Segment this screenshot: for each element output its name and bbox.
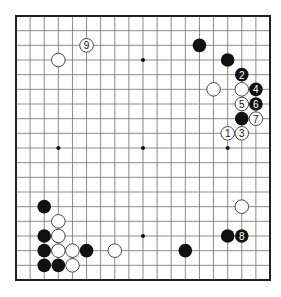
white-stone-icon [52, 215, 66, 229]
white-stone-icon [66, 259, 80, 273]
white-stone-icon [66, 244, 80, 258]
white-stone [108, 244, 122, 258]
black-stone-icon [37, 200, 51, 214]
black-stone-icon [193, 39, 207, 53]
white-stone-icon [52, 244, 66, 258]
black-stone [37, 200, 51, 214]
black-stone [37, 244, 51, 258]
black-stone [179, 244, 193, 258]
white-stone-move-9: 9 [80, 39, 94, 53]
black-stone-icon [235, 112, 249, 126]
move-number-label: 8 [239, 231, 245, 242]
black-stone-icon [37, 259, 51, 273]
white-stone-move-5: 5 [235, 97, 249, 111]
move-number-label: 2 [239, 70, 245, 81]
white-stone-icon [52, 229, 66, 243]
white-stone [66, 244, 80, 258]
move-number-label: 7 [253, 114, 259, 125]
black-stone-move-4: 4 [249, 83, 263, 97]
black-stone [80, 244, 94, 258]
move-number-label: 3 [239, 128, 245, 139]
white-stone-move-3: 3 [235, 127, 249, 141]
black-stone [193, 39, 207, 53]
black-stone [221, 229, 235, 243]
black-stone-move-8: 8 [235, 229, 249, 243]
stones: 924567138 [37, 39, 262, 273]
star-point [141, 234, 145, 238]
black-stone-move-6: 6 [249, 97, 263, 111]
white-stone-icon [52, 53, 66, 67]
black-stone-icon [179, 244, 193, 258]
go-board-diagram: 924567138 [0, 0, 281, 297]
black-stone-icon [221, 53, 235, 67]
black-stone [37, 259, 51, 273]
white-stone-move-7: 7 [249, 112, 263, 126]
white-stone-icon [235, 200, 249, 214]
black-stone-icon [52, 259, 66, 273]
go-board: 924567138 [0, 0, 281, 297]
black-stone-move-2: 2 [235, 68, 249, 82]
black-stone-icon [37, 229, 51, 243]
black-stone-icon [37, 244, 51, 258]
move-number-label: 9 [84, 40, 90, 51]
white-stone-icon [235, 83, 249, 97]
white-stone [52, 215, 66, 229]
black-stone [52, 259, 66, 273]
star-point [141, 146, 145, 150]
star-point [141, 58, 145, 62]
star-point [56, 146, 60, 150]
white-stone [235, 200, 249, 214]
white-stone-icon [207, 83, 221, 97]
white-stone [207, 83, 221, 97]
white-stone-icon [108, 244, 122, 258]
black-stone-icon [221, 229, 235, 243]
move-number-label: 4 [253, 84, 259, 95]
white-stone [235, 83, 249, 97]
white-stone-move-1: 1 [221, 127, 235, 141]
black-stone [235, 112, 249, 126]
move-number-label: 5 [239, 99, 245, 110]
black-stone-icon [80, 244, 94, 258]
move-number-label: 6 [253, 99, 259, 110]
white-stone [52, 229, 66, 243]
white-stone [66, 259, 80, 273]
white-stone [52, 244, 66, 258]
move-number-label: 1 [225, 128, 231, 139]
black-stone [37, 229, 51, 243]
white-stone [52, 53, 66, 67]
star-point [226, 146, 230, 150]
black-stone [221, 53, 235, 67]
